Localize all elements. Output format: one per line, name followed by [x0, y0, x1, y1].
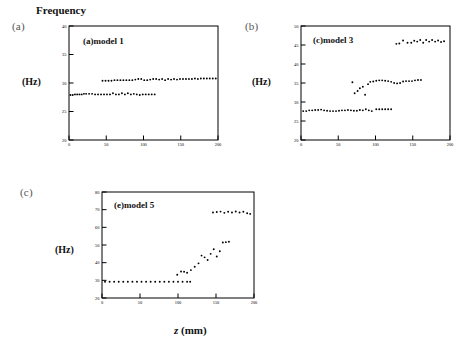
data-point: [216, 211, 218, 213]
data-point: [94, 93, 96, 95]
y-tick-label: 70: [95, 207, 100, 212]
x-tick-label: 100: [175, 300, 182, 305]
x-axis-unit: (mm): [181, 324, 207, 336]
data-point: [228, 241, 230, 243]
data-point: [387, 80, 389, 82]
panel-c-y-unit: (Hz): [55, 244, 74, 255]
data-point: [398, 43, 400, 45]
x-tick-label: 0: [68, 142, 71, 147]
y-tick-label: 20: [95, 296, 100, 301]
data-point: [212, 77, 214, 79]
x-tick-label: 150: [213, 300, 220, 305]
data-point: [134, 79, 136, 81]
data-point: [127, 281, 129, 283]
data-point: [183, 271, 185, 273]
data-point: [320, 109, 322, 111]
panel-b: 20253035404550050100150200(c)model 3: [287, 22, 452, 152]
figure-root: Frequency (a) (Hz) 202530354005010015020…: [0, 0, 472, 350]
data-point: [323, 109, 325, 111]
data-point: [428, 41, 430, 43]
data-point: [351, 81, 353, 83]
data-point: [114, 79, 116, 81]
data-point: [332, 110, 334, 112]
data-point: [189, 281, 191, 283]
data-point: [353, 110, 355, 112]
data-point: [434, 41, 436, 43]
data-point: [159, 281, 161, 283]
data-point: [182, 281, 184, 283]
data-point: [242, 211, 244, 213]
data-point: [311, 109, 313, 111]
data-series: [351, 79, 421, 96]
data-point: [308, 109, 310, 111]
data-point: [111, 80, 113, 82]
data-point: [329, 110, 331, 112]
data-point: [81, 93, 83, 95]
data-point: [367, 83, 369, 85]
data-point: [350, 109, 352, 111]
data-point: [179, 78, 181, 80]
panel-letter-b: (b): [245, 20, 258, 32]
data-point: [158, 79, 160, 81]
data-point: [145, 93, 147, 95]
panel-letter-a: (a): [12, 20, 25, 32]
data-point: [97, 93, 99, 95]
data-point: [249, 213, 251, 215]
data-point: [186, 272, 188, 274]
data-point: [378, 108, 380, 110]
data-point: [119, 79, 121, 81]
data-point: [396, 82, 398, 84]
data-point: [335, 110, 337, 112]
data-point: [137, 78, 139, 80]
y-tick-label: 40: [294, 62, 299, 67]
data-point: [113, 281, 115, 283]
data-point: [76, 93, 78, 95]
data-point: [100, 93, 102, 95]
data-point: [302, 110, 304, 112]
data-point: [305, 110, 307, 112]
data-point: [167, 78, 169, 80]
data-point: [227, 211, 229, 213]
data-point: [161, 78, 163, 80]
data-point: [408, 80, 410, 82]
data-point: [213, 248, 215, 250]
data-point: [91, 93, 93, 95]
data-point: [141, 281, 143, 283]
data-point: [88, 93, 90, 95]
x-tick-label: 100: [372, 142, 379, 147]
data-series: [302, 108, 392, 112]
data-point: [198, 262, 200, 264]
data-point: [354, 92, 356, 94]
data-point: [212, 212, 214, 214]
y-tick-label: 50: [294, 24, 299, 29]
plot-title: (a)model 1: [83, 36, 124, 46]
data-point: [163, 281, 165, 283]
data-point: [359, 87, 361, 89]
x-tick-label: 50: [138, 300, 143, 305]
y-tick-label: 20: [62, 138, 67, 143]
data-point: [437, 39, 439, 41]
data-point: [182, 78, 184, 80]
data-point: [344, 109, 346, 111]
y-tick-label: 45: [294, 43, 299, 48]
data-point: [416, 41, 418, 43]
y-tick-label: 35: [62, 52, 67, 57]
plot-title: (e)model 5: [114, 200, 155, 210]
panel-c-plot: 20304050607080050100150200(e)model 5: [88, 188, 256, 310]
data-point: [176, 274, 178, 276]
data-point: [402, 39, 404, 41]
x-tick-label: 150: [177, 142, 184, 147]
data-point: [188, 78, 190, 80]
data-point: [122, 281, 124, 283]
x-tick-label: 100: [140, 142, 147, 147]
x-tick-label: 0: [300, 142, 303, 147]
figure-title: Frequency: [36, 4, 86, 16]
data-point: [207, 259, 209, 261]
data-point: [365, 108, 367, 110]
data-point: [395, 43, 397, 45]
data-point: [125, 79, 127, 81]
data-point: [387, 108, 389, 110]
data-point: [109, 281, 111, 283]
x-tick-label: 200: [215, 142, 222, 147]
y-tick-label: 25: [62, 109, 67, 114]
